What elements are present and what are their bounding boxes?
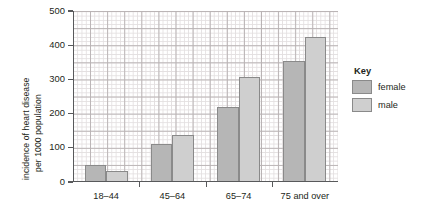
bar-chart: incidence of heart disease per 1000 popu… xyxy=(0,0,423,213)
y-tick-label: 500 xyxy=(49,5,65,16)
y-tick-label: 0 xyxy=(60,176,65,187)
x-axis-separator xyxy=(139,182,140,187)
y-tick-label: 400 xyxy=(49,39,65,50)
x-axis: 18–4445–6465–7475 and over xyxy=(73,182,338,213)
legend-item-male: male xyxy=(352,98,422,112)
y-tick-label: 200 xyxy=(49,107,65,118)
plot-area xyxy=(73,11,338,182)
x-axis-separator xyxy=(206,182,207,187)
legend-label-female: female xyxy=(378,82,406,92)
x-axis-label: 18–44 xyxy=(73,191,139,201)
legend-item-female: female xyxy=(352,80,422,94)
legend-title: Key xyxy=(354,66,422,76)
legend-label-male: male xyxy=(378,100,398,110)
y-tick-label: 300 xyxy=(49,73,65,84)
x-axis-label: 65–74 xyxy=(206,191,272,201)
plot-frame xyxy=(73,11,338,182)
x-axis-label: 45–64 xyxy=(139,191,205,201)
y-axis: 0100200300400500 xyxy=(0,0,73,213)
legend-swatch-male xyxy=(352,98,372,112)
x-axis-separator xyxy=(272,182,273,187)
legend-swatch-female xyxy=(352,80,372,94)
y-tick-label: 100 xyxy=(49,141,65,152)
x-axis-label: 75 and over xyxy=(272,191,338,201)
legend: Key female male xyxy=(352,66,422,116)
